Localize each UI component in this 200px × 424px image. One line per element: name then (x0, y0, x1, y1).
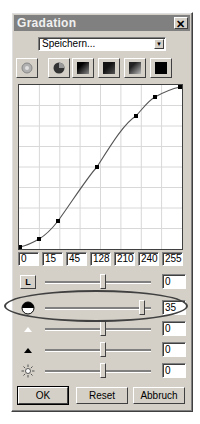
shadows-value[interactable]: 0 (162, 342, 186, 357)
curve-point-inputs: 0 15 45 128 210 240 255 (18, 252, 185, 266)
preset-4-icon (155, 62, 167, 74)
slider-thumb[interactable] (100, 274, 106, 289)
dark-triangle-icon (20, 343, 36, 357)
slider-track[interactable] (45, 328, 151, 331)
slider-thumb[interactable] (100, 321, 106, 336)
slider-row-shadows: 0 (18, 341, 188, 359)
gradation-curve-graph[interactable] (18, 84, 183, 250)
brightness-value[interactable]: 0 (162, 363, 186, 378)
slider-thumb[interactable] (100, 342, 106, 357)
point-input[interactable]: 0 (18, 252, 39, 266)
preset-1-button[interactable] (72, 58, 94, 78)
point-input[interactable]: 128 (90, 252, 111, 266)
title-bar[interactable]: Gradation ✕ (14, 15, 190, 31)
slider-track[interactable] (45, 281, 151, 284)
preset-2-icon (103, 62, 115, 74)
reset-curve-button[interactable] (16, 58, 38, 78)
color-channel-icon (53, 62, 65, 74)
light-triangle-icon (20, 322, 36, 336)
highlight-ellipse-annotation (4, 290, 188, 322)
reset-curve-icon (21, 62, 33, 74)
luminance-value[interactable]: 0 (162, 274, 186, 289)
cancel-button[interactable]: Abbruch (133, 387, 185, 404)
preset-3-icon (129, 62, 141, 74)
slider-row-luminance: L 0 (18, 273, 188, 291)
gradation-dialog: Gradation ✕ Speichern... ▼ (11, 12, 193, 412)
preset-1-icon (77, 62, 89, 74)
luminance-button[interactable]: L (20, 275, 36, 289)
slider-track[interactable] (45, 349, 151, 352)
dropdown-value: Speichern... (42, 38, 95, 50)
preset-2-button[interactable] (98, 58, 120, 78)
highlights-value[interactable]: 0 (162, 321, 186, 336)
color-channel-button[interactable] (48, 58, 70, 78)
close-button[interactable]: ✕ (174, 17, 188, 29)
point-input[interactable]: 15 (42, 252, 63, 266)
save-dropdown[interactable]: Speichern... ▼ (38, 37, 166, 51)
curve-svg (19, 85, 182, 249)
point-input[interactable]: 255 (162, 252, 183, 266)
sun-icon (20, 364, 36, 378)
reset-button[interactable]: Reset (76, 387, 128, 404)
slider-row-brightness: 0 (18, 362, 188, 380)
preset-4-button[interactable] (150, 58, 172, 78)
chevron-down-icon[interactable]: ▼ (154, 39, 164, 49)
luminance-icon: L (25, 277, 31, 287)
point-input[interactable]: 240 (138, 252, 159, 266)
point-input[interactable]: 45 (66, 252, 87, 266)
ok-button[interactable]: OK (18, 387, 68, 404)
window-title: Gradation (17, 16, 76, 30)
slider-row-highlights: 0 (18, 320, 188, 338)
slider-track[interactable] (45, 370, 151, 373)
preset-3-button[interactable] (124, 58, 146, 78)
point-input[interactable]: 210 (114, 252, 135, 266)
slider-thumb[interactable] (100, 363, 106, 378)
